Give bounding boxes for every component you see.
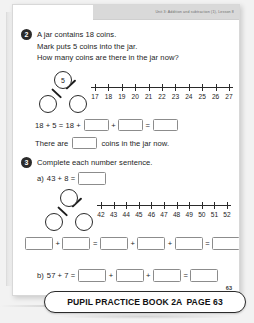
question-3-box-1[interactable] bbox=[25, 237, 53, 250]
question-2-text: A jar contains 18 coins. Mark puts 5 coi… bbox=[37, 29, 179, 64]
question-2-number-line-tick bbox=[162, 84, 163, 91]
question-3-part-b: b) 57 + 7 = + + = bbox=[37, 269, 218, 282]
question-3-part-a-label: a) bbox=[37, 174, 44, 183]
question-2-number-line-tick-label: 17 bbox=[91, 93, 98, 100]
question-3-part-b-box-4[interactable] bbox=[190, 269, 218, 282]
question-3-number-line-tick bbox=[164, 202, 165, 209]
question-2-number-line: 1718192021222324252627 bbox=[91, 87, 233, 105]
question-3-box-3[interactable] bbox=[100, 237, 128, 250]
question-2-number-line-tick-label: 21 bbox=[145, 93, 152, 100]
question-3-number-line-tick-label: 46 bbox=[148, 211, 155, 218]
question-2-sentence-answer-box[interactable] bbox=[72, 137, 97, 149]
banner-page-label: PAGE 63 bbox=[186, 297, 222, 307]
question-2-sentence-before: There are bbox=[35, 139, 68, 148]
question-3-box-operator-1: + bbox=[56, 239, 60, 248]
question-2-number-line-tick bbox=[149, 84, 150, 91]
question-2-answer-box-1[interactable] bbox=[84, 119, 109, 131]
question-3-part-b-box-2[interactable] bbox=[116, 269, 144, 282]
question-3-box-5[interactable] bbox=[175, 237, 203, 250]
question-2-number-line-tick-label: 24 bbox=[185, 93, 192, 100]
question-3-number-line-tick bbox=[202, 202, 203, 209]
part-whole-whole-circle[interactable]: 5 bbox=[54, 71, 72, 89]
question-3-number-line-tick bbox=[189, 202, 190, 209]
question-2-number-line-tick-label: 27 bbox=[225, 93, 232, 100]
question-2-number-line-tick-label: 18 bbox=[105, 93, 112, 100]
pupil-practice-book-banner: PUPIL PRACTICE BOOK 2APAGE 63 bbox=[44, 291, 246, 313]
banner-title: PUPIL PRACTICE BOOK 2A bbox=[67, 297, 182, 307]
question-3-part-a: a) 43 + 8 = bbox=[37, 172, 106, 185]
question-3-part-a-prefix: 43 + 8 = bbox=[47, 174, 75, 183]
question-2-equation-prefix: 18 + 5 = 18 + bbox=[35, 121, 81, 130]
question-2: 2 A jar contains 18 coins. Mark puts 5 c… bbox=[13, 29, 240, 64]
question-3-number-line-tick bbox=[101, 202, 102, 209]
question-3-box-6[interactable] bbox=[212, 237, 240, 250]
question-2-operator-1: + bbox=[111, 121, 115, 130]
question-2-equation: 18 + 5 = 18 + + = bbox=[35, 119, 178, 131]
question-3-box-operator-4: + bbox=[168, 239, 172, 248]
question-3-number-line-tick-label: 51 bbox=[211, 211, 218, 218]
running-header-text: Unit 3: Addition and subtraction (1), Le… bbox=[155, 10, 234, 14]
question-3-part-b-box-1[interactable] bbox=[78, 269, 106, 282]
part-whole-part-left-circle[interactable] bbox=[45, 213, 63, 231]
question-3-number-line-tick-label: 52 bbox=[223, 211, 230, 218]
banner-label: PUPIL PRACTICE BOOK 2APAGE 63 bbox=[67, 297, 223, 307]
question-2-line-3: How many coins are there in the jar now? bbox=[37, 52, 179, 64]
question-3-number-line-tick bbox=[151, 202, 152, 209]
question-2-answer-box-3[interactable] bbox=[153, 119, 178, 131]
question-3-box-4[interactable] bbox=[137, 237, 165, 250]
screenshot-root: Unit 3: Addition and subtraction (1), Le… bbox=[0, 0, 254, 323]
question-3-number-line-tick bbox=[126, 202, 127, 209]
question-3: 3 Complete each number sentence. bbox=[13, 157, 240, 169]
question-2-number-line-tick bbox=[216, 84, 217, 91]
part-whole-part-left-circle[interactable] bbox=[39, 95, 57, 113]
question-3-part-a-answer-box[interactable] bbox=[78, 172, 106, 185]
question-2-sentence: There are coins in the jar now. bbox=[35, 137, 169, 149]
question-2-number-line-tick-label: 26 bbox=[212, 93, 219, 100]
question-2-line-2: Mark puts 5 coins into the jar. bbox=[37, 41, 179, 53]
banner-shadow bbox=[50, 314, 240, 319]
question-2-number-line-tick-label: 19 bbox=[118, 93, 125, 100]
question-3-number-line-tick-label: 47 bbox=[160, 211, 167, 218]
question-2-part-whole-model: 5 bbox=[35, 69, 97, 115]
question-3-number-line-tick-label: 48 bbox=[173, 211, 180, 218]
part-whole-part-right-circle[interactable] bbox=[75, 213, 93, 231]
question-3-number-line-tick-label: 42 bbox=[97, 211, 104, 218]
question-3-box-2[interactable] bbox=[62, 237, 90, 250]
question-3-part-b-label: b) bbox=[37, 271, 44, 280]
question-3-number-line-tick-label: 49 bbox=[186, 211, 193, 218]
question-2-number-line-tick bbox=[95, 84, 96, 91]
question-2-number-line-tick-label: 20 bbox=[132, 93, 139, 100]
part-whole-whole-circle[interactable] bbox=[60, 189, 78, 207]
question-2-number-line-tick bbox=[175, 84, 176, 91]
question-3-number-line-tick bbox=[227, 202, 228, 209]
question-3-box-operator-5: = bbox=[205, 239, 209, 248]
question-2-sentence-after: coins in the jar now. bbox=[101, 139, 169, 148]
question-3-part-b-prefix: 57 + 7 = bbox=[47, 271, 75, 280]
part-whole-part-right-circle[interactable] bbox=[69, 95, 87, 113]
question-2-operator-2: = bbox=[146, 121, 150, 130]
question-3-number-line-tick bbox=[214, 202, 215, 209]
question-3-box-equation: + = + + = bbox=[25, 237, 240, 250]
question-2-number-line-tick-label: 23 bbox=[172, 93, 179, 100]
running-header: Unit 3: Addition and subtraction (1), Le… bbox=[93, 5, 239, 20]
question-3-part-b-operator-3: = bbox=[184, 271, 188, 280]
question-2-number-line-tick-label: 25 bbox=[199, 93, 206, 100]
question-3-text: Complete each number sentence. bbox=[37, 157, 152, 169]
question-3-number-line-tick-label: 44 bbox=[123, 211, 130, 218]
question-3-part-b-operator-1: + bbox=[109, 271, 113, 280]
question-3-part-whole-model bbox=[41, 187, 103, 233]
question-3-number-line-tick bbox=[139, 202, 140, 209]
question-2-number-line-tick bbox=[229, 84, 230, 91]
question-2-answer-box-2[interactable] bbox=[118, 119, 143, 131]
question-2-number-badge: 2 bbox=[21, 29, 32, 40]
question-3-number-line-tick bbox=[177, 202, 178, 209]
question-3-part-b-operator-2: + bbox=[146, 271, 150, 280]
question-2-number-line-tick bbox=[108, 84, 109, 91]
question-3-number-line: 4243444546474849505152 bbox=[97, 205, 231, 223]
bottom-banner-area: PUPIL PRACTICE BOOK 2APAGE 63 bbox=[0, 289, 254, 323]
question-3-part-b-box-3[interactable] bbox=[153, 269, 181, 282]
question-2-number-line-tick-label: 22 bbox=[158, 93, 165, 100]
question-3-line-1: Complete each number sentence. bbox=[37, 157, 152, 169]
question-3-number-line-tick-label: 50 bbox=[198, 211, 205, 218]
question-2-line-1: A jar contains 18 coins. bbox=[37, 29, 179, 41]
